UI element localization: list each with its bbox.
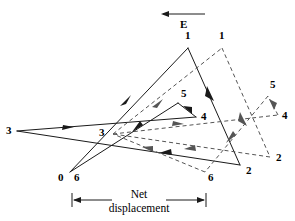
arrowhead-d-0-1 (152, 99, 163, 108)
arrowhead-0-1 (120, 95, 131, 106)
dashed-leg-6-0 (113, 134, 205, 172)
vertex-label-solid-0: 0 (58, 172, 64, 183)
dashed-vector-path (113, 48, 278, 172)
dashed-arrowheads (142, 99, 277, 152)
left-arrow-icon (161, 11, 169, 17)
arrowhead-d-3-4 (172, 121, 184, 126)
dashed-leg-2-3 (113, 134, 270, 157)
scale-bar-left-arrow-icon (73, 197, 81, 203)
net-displacement-caption-line1: Net (99, 188, 179, 200)
net-displacement-caption-line2: displacement (99, 202, 179, 214)
vertex-label-solid-3: 3 (6, 125, 12, 136)
vertex-label-solid-6: 6 (74, 172, 80, 183)
scale-bar-right-arrow-icon (197, 197, 205, 203)
vertex-label-dashed-2: 2 (276, 152, 282, 163)
vertex-label-solid-4: 4 (201, 111, 207, 122)
arrowhead-3-4 (62, 125, 74, 130)
solid-leg-4-5 (178, 103, 196, 117)
solid-leg-1-2 (188, 48, 240, 165)
vertex-label-dashed-4: 4 (282, 110, 288, 121)
vertex-label-dashed-5: 5 (270, 79, 276, 90)
arrowhead-d-2-3 (184, 145, 196, 151)
east-direction-marker (161, 11, 205, 17)
solid-leg-3-4 (17, 117, 196, 131)
vertex-label-solid-1: 1 (185, 30, 191, 41)
vertex-label-solid-5: 5 (181, 88, 187, 99)
vertex-label-dashed-6: 6 (208, 172, 214, 183)
vertex-label-dashed-3: 3 (99, 127, 105, 138)
vertex-label-dashed-1: 1 (219, 30, 225, 41)
arrowhead-d-4-5 (269, 99, 277, 110)
solid-leg-5-6 (70, 103, 178, 172)
vertex-label-solid-2: 2 (246, 165, 252, 176)
